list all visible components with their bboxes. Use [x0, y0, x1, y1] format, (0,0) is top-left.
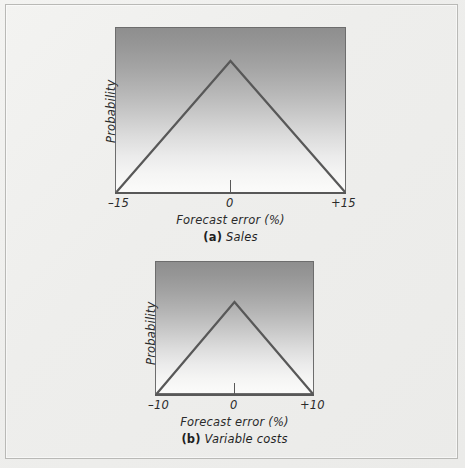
panel-variable-costs: –10 0 +10 Forecast error (%) Probability… — [0, 250, 465, 468]
figure-plate: –15 0 +15 Forecast error (%) Probability… — [0, 0, 465, 468]
panel-caption-tag-sales: (a) — [203, 230, 222, 244]
y-axis-title-variable-costs: Probability — [144, 302, 158, 365]
panel-caption-sales: (a) Sales — [115, 230, 346, 244]
x-tick-label-min-variable-costs: –10 — [148, 398, 169, 412]
panel-caption-variable-costs: (b) Variable costs — [155, 432, 314, 446]
x-tick-label-max-sales: +15 — [331, 196, 356, 210]
x-axis-title-sales: Forecast error (%) — [115, 213, 346, 227]
panel-caption-tag-variable-costs: (b) — [181, 432, 200, 446]
x-axis-line-variable-costs — [155, 394, 314, 396]
x-axis-line-sales — [115, 192, 346, 194]
x-tick-label-zero-variable-costs: 0 — [230, 398, 238, 412]
x-tick-label-zero-sales: 0 — [226, 196, 234, 210]
panel-sales: –15 0 +15 Forecast error (%) Probability… — [0, 0, 465, 250]
y-axis-title-sales: Probability — [104, 80, 118, 143]
x-axis-title-variable-costs: Forecast error (%) — [155, 415, 314, 429]
panel-caption-text-sales: Sales — [226, 230, 258, 244]
x-tick-label-max-variable-costs: +10 — [300, 398, 325, 412]
panel-caption-text-variable-costs: Variable costs — [205, 432, 288, 446]
x-axis-tick-zero-sales — [230, 180, 231, 192]
x-axis-tick-zero-variable-costs — [234, 383, 235, 394]
x-tick-label-min-sales: –15 — [108, 196, 129, 210]
